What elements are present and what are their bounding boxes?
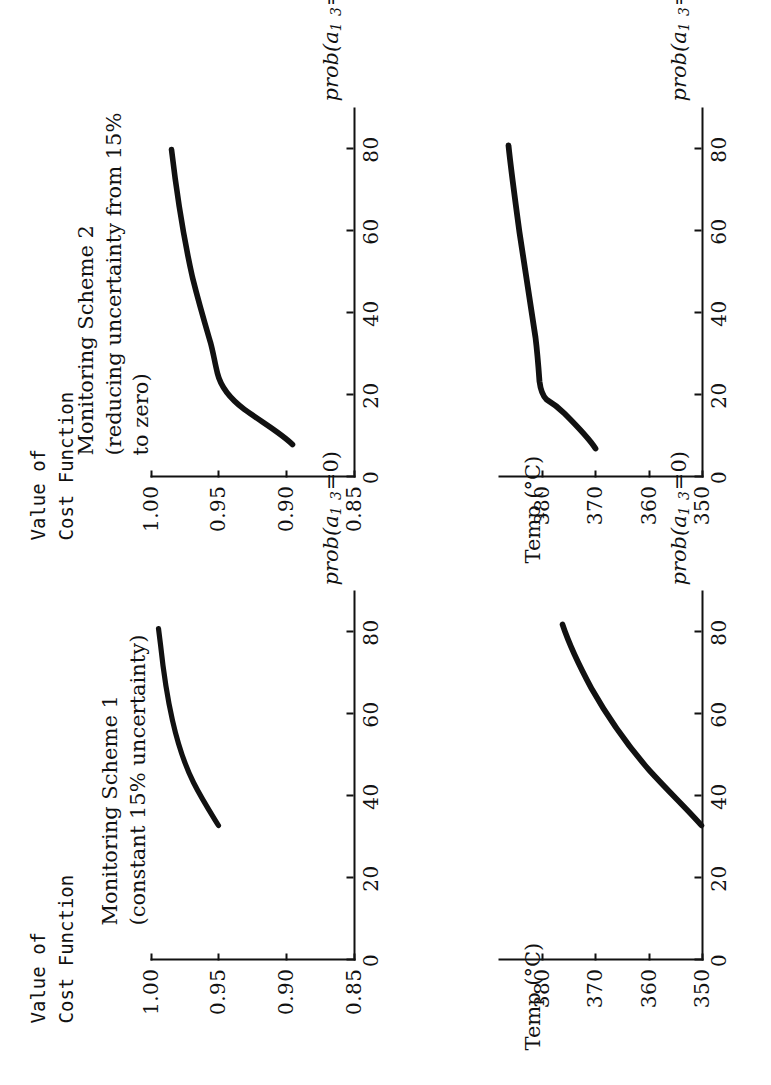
y-tick-label-0-95: 0.95 [207,968,227,1030]
x-tick-label-0: 0 [360,953,380,966]
y-tick-label-350: 350 [691,485,711,543]
x-tick-label-20: 20 [360,382,380,408]
x-tick-label-40: 40 [360,783,380,809]
y-tick-label-0-85: 0.85 [343,485,363,547]
figure-rotation-wrapper: Value of Cost Function Value of Cost Fun… [0,0,771,1085]
panel-scheme1-cost-title: Monitoring Scheme 1 (constant 15% uncert… [96,634,151,925]
figure-canvas: Value of Cost Function Value of Cost Fun… [0,0,771,1085]
x-tick-label-60: 60 [360,701,380,727]
plot-area-scheme1-cost: 0 20 40 60 80 1.00 0.95 0.90 0.85 [150,590,355,960]
x-tick-label-20: 20 [360,865,380,891]
y-tick-label-380: 380 [531,968,551,1026]
panel-scheme1-cost-title-line1: Monitoring Scheme 1 [96,634,124,925]
y-tick-label-360: 360 [638,485,658,543]
panel-scheme1-cost-title-line2: (constant 15% uncertainty) [124,634,152,925]
x-tick-label-0: 0 [708,953,728,966]
x-tick-label-60: 60 [708,218,728,244]
x-tick-label-80: 80 [708,136,728,162]
y-tick-label-0-85: 0.85 [343,968,363,1030]
y-tick-label-350: 350 [691,968,711,1026]
panel-scheme2-cost-title-line2: (reducing uncertainty from 15% [100,112,128,455]
panel-scheme1-cost: Monitoring Scheme 1 (constant 15% uncert… [0,555,390,1085]
data-curve-scheme2-temp [498,107,703,477]
panel-scheme1-temp: Temp (°C) 0 20 40 60 80 380 [390,555,771,1085]
panel-scheme2-temp: Temp (°C) 0 20 40 60 80 380 370 [390,0,771,555]
data-curve-scheme1-temp [498,590,703,960]
panel-scheme2-cost: Monitoring Scheme 2 (reducing uncertaint… [0,0,390,555]
plot-area-scheme1-temp: 0 20 40 60 80 380 370 360 350 [498,590,703,960]
x-tick-label-20: 20 [708,382,728,408]
x-tick-label-80: 80 [360,136,380,162]
y-tick-label-0-90: 0.90 [275,968,295,1030]
x-tick-label-0: 0 [708,470,728,483]
x-tick-label-0: 0 [360,470,380,483]
y-tick-label-370: 370 [584,968,604,1026]
panel-scheme2-cost-title: Monitoring Scheme 2 (reducing uncertaint… [72,112,155,455]
y-tick-label-380: 380 [531,485,551,543]
x-tick-label-40: 40 [360,300,380,326]
x-tick-label-60: 60 [360,218,380,244]
data-curve-scheme1-cost [150,590,355,960]
y-tick-label-370: 370 [584,485,604,543]
x-axis-label-scheme2-temp: prob(a1 3=0) [666,0,693,101]
plot-area-scheme2-cost: 0 20 40 60 80 1.00 0.95 0.90 0.85 [150,107,355,477]
x-tick-label-20: 20 [708,865,728,891]
y-tick-label-360: 360 [638,968,658,1026]
x-tick-label-40: 40 [708,783,728,809]
x-tick-label-80: 80 [708,619,728,645]
x-tick-label-60: 60 [708,701,728,727]
y-tick-label-1-00: 1.00 [140,968,160,1030]
y-tick-label-0-90: 0.90 [275,485,295,547]
y-tick-label-0-95: 0.95 [207,485,227,547]
x-axis-label-scheme2-cost: prob(a1 3=0) [318,0,345,101]
y-tick-label-1-00: 1.00 [140,485,160,547]
plot-area-scheme2-temp: 0 20 40 60 80 380 370 360 350 [498,107,703,477]
x-tick-label-80: 80 [360,619,380,645]
x-tick-label-40: 40 [708,300,728,326]
panel-scheme2-cost-title-line1: Monitoring Scheme 2 [72,112,100,455]
data-curve-scheme2-cost [150,107,355,477]
